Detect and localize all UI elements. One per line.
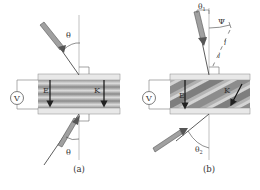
circuit-wire-a: [17, 80, 38, 91]
panel-b: θ1 Ψ l l θ2 E K V (b): [143, 2, 251, 174]
field-label-e-b: E: [179, 91, 185, 100]
incident-beam-arrow-a: [40, 22, 66, 53]
transmitted-beam-arrow-a: [58, 115, 80, 147]
acousto-optic-diagram: θ θ E K V (a) θ1: [0, 0, 260, 190]
circuit-wire-a-2: [17, 105, 38, 109]
length-label-1-b: l: [224, 39, 226, 47]
wavefront-dashed-b: [212, 30, 230, 68]
voltmeter-label-a: V: [13, 94, 20, 103]
right-angle-bottom-a: [79, 114, 89, 121]
bottom-plate-a: [38, 108, 120, 114]
bottom-plate-b: [170, 108, 250, 114]
exit-beam-arrow-b: [153, 128, 188, 152]
incident-ray-a: [60, 48, 79, 75]
angle-label-theta2-b: θ2: [195, 145, 203, 155]
incident-beam-arrow-b: [194, 11, 207, 46]
circuit-wire-b-2: [149, 105, 170, 109]
voltmeter-label-b: V: [145, 94, 152, 103]
top-plate-b: [170, 74, 250, 80]
angle-label-theta1-b: θ1: [198, 2, 206, 12]
angle-label-psi-b: Ψ: [218, 17, 225, 26]
caption-a: (a): [73, 164, 85, 174]
panel-a: θ θ E K V (a): [11, 15, 121, 174]
field-label-e-a: E: [43, 86, 49, 95]
length-label-2-b: l: [218, 52, 220, 60]
field-label-k-b: K: [224, 86, 231, 95]
exit-ray-b: [176, 114, 209, 141]
right-angle-top-b: [209, 67, 219, 74]
circuit-wire-b: [149, 80, 170, 91]
right-angle-top-a: [79, 67, 89, 74]
angle-label-bottom-a: θ: [66, 148, 71, 157]
caption-b: (b): [203, 164, 215, 174]
angle-label-top-a: θ: [66, 31, 71, 40]
field-label-k-a: K: [94, 86, 101, 95]
